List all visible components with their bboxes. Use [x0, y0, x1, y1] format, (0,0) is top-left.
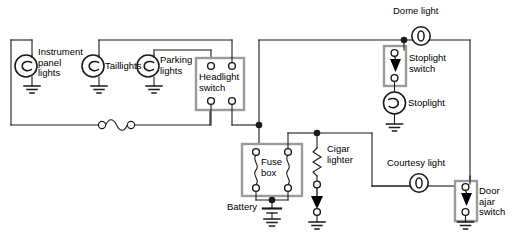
circuit-diagram-canvas: Instrument panel lights Taillights Parki…: [0, 0, 513, 244]
label-stoplight-switch: Stoplight switch: [409, 53, 446, 74]
label-fuse-box: Fuse box: [261, 157, 282, 178]
label-stoplight: Stoplight: [408, 98, 445, 109]
inline-fuse-symbol: [98, 120, 134, 131]
courtesy-light-symbol: [372, 174, 457, 192]
instrument-panel-lamp-symbol: [15, 55, 37, 86]
label-headlight-switch: Headlight switch: [199, 72, 239, 93]
label-courtesy-light: Courtesy light: [387, 158, 445, 169]
wire-main-supply-run: [232, 40, 404, 156]
label-taillights: Taillights: [105, 61, 141, 72]
cigar-lighter-resistor-symbol: [313, 148, 321, 188]
stoplight-ground-symbol: [387, 124, 403, 131]
door-ajar-ground-symbol: [458, 222, 474, 229]
parking-lights-ground-symbol: [146, 86, 162, 93]
taillights-ground-symbol: [91, 86, 107, 93]
junction-dot-main-supply: [256, 122, 263, 129]
label-cigar-lighter: Cigar lighter: [327, 144, 353, 165]
cigar-lighter-switch-symbol: [311, 188, 323, 222]
label-parking-lights: Parking lights: [160, 55, 192, 76]
cigar-lighter-ground-symbol: [309, 222, 325, 229]
wire-taillights-top: [99, 40, 232, 55]
label-battery: Battery: [227, 202, 257, 213]
instrument-panel-ground-symbol: [24, 86, 40, 93]
battery-symbol: [263, 200, 281, 226]
stoplight-lamp-symbol: [384, 81, 406, 124]
junction-dot-cigar-lighter: [314, 130, 321, 137]
label-instrument-panel-lights: Instrument panel lights: [38, 47, 83, 79]
label-dome-light: Dome light: [393, 6, 438, 17]
taillights-lamp-symbol: [82, 55, 104, 86]
label-door-ajar-switch: Door ajar switch: [479, 186, 505, 218]
wire-fuse-to-headlight-switch: [135, 110, 210, 125]
